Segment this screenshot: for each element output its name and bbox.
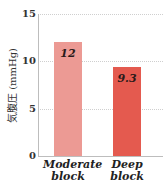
bar-value-label: 9.3	[113, 72, 141, 85]
y-axis	[38, 14, 39, 157]
y-tick-5: 5	[22, 104, 36, 114]
y-tick-15: 15	[22, 9, 36, 19]
x-tick-deep-block: Deep block	[102, 159, 152, 183]
bar-value-label: 12	[54, 47, 82, 60]
gridline-15	[38, 14, 163, 15]
y-tick-10: 10	[22, 56, 36, 66]
y-axis-label: 気腹圧 (mmHg)	[4, 41, 19, 131]
y-tick-0: 0	[22, 151, 36, 161]
x-axis	[38, 156, 163, 157]
x-tick-moderate-block: Moderate block	[43, 159, 93, 183]
x-tick-line: block	[43, 171, 93, 183]
bar-deep-block: 9.3	[113, 67, 141, 156]
bar-chart: 気腹圧 (mmHg) 15 10 5 0 12 9.3 Moderate blo…	[0, 0, 163, 191]
bar-moderate-block: 12	[54, 42, 82, 156]
x-tick-line: block	[102, 171, 152, 183]
